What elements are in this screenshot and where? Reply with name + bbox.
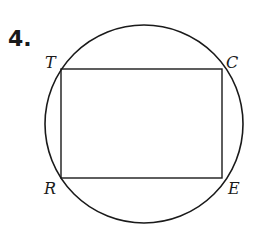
vertex-label-r: R bbox=[43, 179, 56, 198]
problem-number: 4. bbox=[8, 26, 32, 51]
vertex-label-t: T bbox=[45, 53, 57, 72]
vertex-label-e: E bbox=[227, 179, 240, 198]
vertex-label-c: C bbox=[226, 53, 238, 72]
inscribed-rectangle bbox=[61, 69, 222, 178]
inscribed-rectangle-diagram: 4. T C R E bbox=[0, 0, 254, 233]
circumscribed-circle bbox=[45, 25, 243, 223]
